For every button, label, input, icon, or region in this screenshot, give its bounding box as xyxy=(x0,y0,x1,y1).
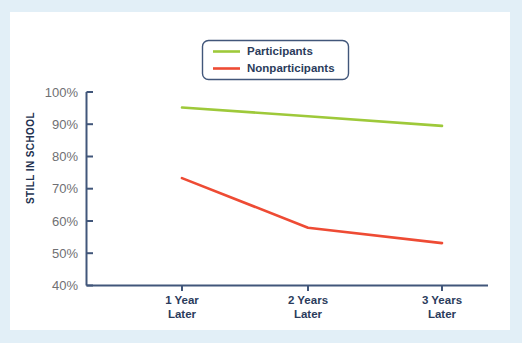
x-tick-label-top: 1 Year xyxy=(165,294,199,306)
x-tick-label-top: 3 Years xyxy=(422,294,462,306)
y-tick-label: 100% xyxy=(45,85,79,100)
y-tick-label: 60% xyxy=(52,214,78,229)
page-background: STILL IN SCHOOL 100% 90% 80% 70% 60% 50%… xyxy=(0,0,522,343)
legend-label-nonparticipants: Nonparticipants xyxy=(247,62,335,74)
y-tick-label: 80% xyxy=(52,149,78,164)
y-tick-label: 50% xyxy=(52,246,78,261)
x-tick-label-top: 2 Years xyxy=(288,294,328,306)
series-line-participants xyxy=(182,108,442,126)
series-line-nonparticipants xyxy=(182,178,442,243)
y-tick-label: 90% xyxy=(52,117,78,132)
chart-card: STILL IN SCHOOL 100% 90% 80% 70% 60% 50%… xyxy=(10,12,510,330)
x-tick-label-bottom: Later xyxy=(168,308,197,320)
y-axis-tick-labels: 100% 90% 80% 70% 60% 50% 40% xyxy=(45,85,79,293)
x-tick-label-bottom: Later xyxy=(294,308,323,320)
line-chart: STILL IN SCHOOL 100% 90% 80% 70% 60% 50%… xyxy=(10,12,510,330)
x-axis-category-labels: 1 Year Later 2 Years Later 3 Years Later xyxy=(165,294,462,320)
legend-label-participants: Participants xyxy=(247,45,313,57)
y-axis-title-text: STILL IN SCHOOL xyxy=(25,112,36,204)
y-axis-title: STILL IN SCHOOL xyxy=(25,112,36,204)
y-tick-label: 70% xyxy=(52,181,78,196)
y-tick-label: 40% xyxy=(52,278,78,293)
legend[interactable]: Participants Nonparticipants xyxy=(203,41,349,80)
x-tick-label-bottom: Later xyxy=(428,308,457,320)
